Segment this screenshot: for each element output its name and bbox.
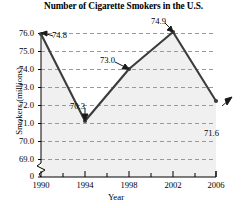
x-tick-label-1990: 1990 (21, 180, 61, 190)
area-fill (41, 32, 216, 177)
x-tick-label-2002: 2002 (153, 180, 193, 190)
data-label-1998: 73.0 (100, 55, 115, 65)
data-label-1994: 70.3 (70, 101, 85, 111)
data-label-1990: 74.8 (52, 30, 67, 40)
y-axis-title: Smokers (millions) (14, 46, 24, 156)
chart-figure: Number of Cigarette Smokers in the U.S. (0, 0, 247, 208)
x-tick-label-1994: 1994 (65, 180, 105, 190)
x-tick-label-2006: 2006 (196, 180, 236, 190)
x-axis-title: Year (0, 192, 232, 202)
data-label-2002: 74.9 (151, 16, 166, 26)
x-tick-label-1998: 1998 (109, 180, 149, 190)
data-label-2006: 71.6 (204, 128, 219, 138)
plot-area (0, 0, 247, 208)
y-tick-label-76: 76.0 (0, 28, 34, 38)
